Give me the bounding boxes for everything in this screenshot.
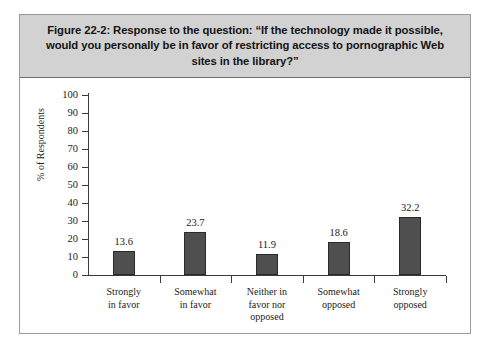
y-axis-tick [82, 221, 88, 222]
y-axis-tick-label: 40 [20, 198, 78, 209]
y-axis-tick-label: 60 [20, 162, 78, 173]
x-axis-category-label-line: favor nor [231, 299, 303, 312]
bar [113, 251, 135, 275]
y-axis-tick [82, 239, 88, 240]
x-axis-line [88, 275, 446, 276]
bar-value-label: 11.9 [237, 240, 297, 251]
chart-plot-area: % of Respondents 0102030405060708090100 … [20, 79, 470, 333]
y-axis-tick-label: 70 [20, 144, 78, 155]
y-axis-tick [82, 257, 88, 258]
x-axis-category-label-line: opposed [374, 299, 446, 312]
y-axis-tick [82, 95, 88, 96]
y-axis-tick-label: 20 [20, 234, 78, 245]
x-axis-category-label: Stronglyopposed [374, 286, 446, 311]
x-axis-tick [231, 276, 232, 283]
y-axis-tick-label: 0 [20, 270, 78, 281]
y-axis-tick [82, 275, 88, 276]
y-axis-tick-label: 10 [20, 252, 78, 263]
x-axis-category-label: Neither infavor noropposed [231, 286, 303, 324]
bar [256, 254, 278, 275]
bar [328, 242, 350, 275]
x-axis-category-label-line: Strongly [374, 286, 446, 299]
y-axis-tick-label: 80 [20, 126, 78, 137]
y-axis-tick [82, 149, 88, 150]
x-axis-category-label-line: Neither in [231, 286, 303, 299]
x-axis-category-label-line: Somewhat [160, 286, 232, 299]
y-axis-tick [82, 113, 88, 114]
x-axis-category-label-line: in favor [160, 299, 232, 312]
y-axis-tick [82, 203, 88, 204]
y-axis-tick [82, 131, 88, 132]
bar-value-label: 32.2 [380, 203, 440, 214]
x-axis-tick [303, 276, 304, 283]
x-axis-category-label: Stronglyin favor [88, 286, 160, 311]
x-axis-category-label-line: in favor [88, 299, 160, 312]
x-axis-category-label-line: Strongly [88, 286, 160, 299]
bar [399, 217, 421, 275]
x-axis-category-label: Somewhatopposed [303, 286, 375, 311]
bar [184, 232, 206, 275]
x-axis-category-label-line: opposed [231, 311, 303, 324]
y-axis-tick-label: 90 [20, 108, 78, 119]
x-axis-tick [160, 276, 161, 283]
bar-value-label: 13.6 [94, 237, 154, 248]
figure-title-banner: Figure 22-2: Response to the question: “… [20, 15, 470, 78]
x-axis-category-label: Somewhatin favor [160, 286, 232, 311]
y-axis-tick [82, 167, 88, 168]
y-axis-tick-label: 100 [20, 90, 78, 101]
y-axis-tick-label: 30 [20, 216, 78, 227]
y-axis-line [88, 93, 89, 276]
x-axis-tick [374, 276, 375, 283]
x-axis-tick [446, 276, 447, 283]
figure-title: Figure 22-2: Response to the question: “… [20, 23, 470, 70]
x-axis-category-label-line: Somewhat [303, 286, 375, 299]
figure-frame: Figure 22-2: Response to the question: “… [19, 14, 471, 334]
y-axis-tick [82, 185, 88, 186]
x-axis-category-label-line: opposed [303, 299, 375, 312]
bar-value-label: 18.6 [309, 228, 369, 239]
y-axis-tick-label: 50 [20, 180, 78, 191]
bar-value-label: 23.7 [165, 218, 225, 229]
